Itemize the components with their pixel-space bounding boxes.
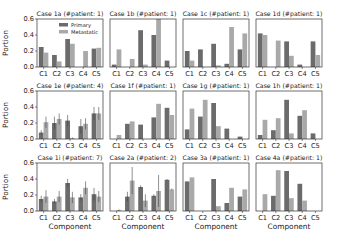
y-tick-label: 0.4 bbox=[24, 31, 35, 39]
bar bbox=[289, 56, 294, 67]
bar bbox=[238, 137, 243, 139]
chart-panel: Case 1f (#patient: 1)C1C2C3C4C5 bbox=[110, 82, 176, 150]
bar bbox=[185, 51, 190, 67]
chart-panel: Case 1g (#patient: 1)C1C2C3C4C5 bbox=[183, 82, 250, 150]
chart-panel: Case 1h (#patient: 1)C1C2C3C4C5 bbox=[256, 82, 323, 150]
x-tick-label: C1 bbox=[258, 142, 267, 150]
bar bbox=[263, 35, 268, 67]
bar bbox=[151, 35, 156, 67]
bar bbox=[65, 39, 70, 67]
y-axis-label: Portion bbox=[1, 30, 10, 56]
chart-panel: Case 1e (#patient: 4)C1C2C3C4C50.00.20.4… bbox=[1, 82, 103, 150]
bar bbox=[44, 53, 49, 67]
chart-panel: Case 1i (#patient: 7)C1C2C3C4C50.00.20.4… bbox=[1, 154, 103, 231]
legend-metastatic: Metastatic bbox=[71, 29, 98, 35]
x-tick-label: C4 bbox=[225, 70, 234, 78]
x-tick-label: C4 bbox=[298, 70, 307, 78]
bar bbox=[242, 33, 247, 67]
x-tick-label: C3 bbox=[285, 142, 294, 150]
bar bbox=[311, 41, 316, 67]
x-tick-label: C3 bbox=[66, 214, 75, 222]
bar bbox=[165, 180, 170, 211]
panel-title: Case 1g (#patient: 1) bbox=[183, 82, 250, 90]
bar bbox=[117, 135, 122, 139]
x-tick-label: C5 bbox=[311, 142, 320, 150]
x-tick-label: C1 bbox=[112, 142, 121, 150]
x-tick-label: C3 bbox=[285, 214, 294, 222]
bar bbox=[302, 110, 307, 139]
x-tick-label: C1 bbox=[185, 214, 194, 222]
bar bbox=[130, 59, 135, 67]
bar bbox=[276, 41, 281, 67]
bar bbox=[96, 48, 101, 67]
bar bbox=[302, 201, 307, 211]
y-tick-label: 0.4 bbox=[24, 175, 35, 183]
y-tick-label: 0.2 bbox=[24, 119, 35, 127]
x-tick-label: C2 bbox=[271, 214, 280, 222]
x-tick-label: C2 bbox=[125, 142, 134, 150]
bar bbox=[165, 61, 170, 67]
x-tick-label: C2 bbox=[198, 214, 207, 222]
bar bbox=[52, 55, 57, 67]
bar bbox=[276, 118, 281, 139]
bar bbox=[238, 49, 243, 67]
x-axis-label: Component bbox=[195, 222, 238, 231]
bar bbox=[216, 206, 221, 211]
bar bbox=[224, 203, 229, 211]
x-tick-label: C1 bbox=[112, 214, 121, 222]
x-tick-label: C5 bbox=[311, 214, 320, 222]
x-tick-label: C4 bbox=[225, 142, 234, 150]
legend: PrimaryMetastatic bbox=[59, 22, 98, 35]
bar bbox=[117, 49, 122, 67]
bar bbox=[169, 189, 174, 211]
x-tick-label: C5 bbox=[92, 142, 101, 150]
bar bbox=[242, 189, 247, 211]
bar bbox=[311, 133, 316, 139]
y-tick-label: 0.2 bbox=[24, 191, 35, 199]
panel-title: Case 1b (#patient: 1) bbox=[110, 10, 177, 18]
bar bbox=[297, 116, 302, 139]
y-tick-label: 0.0 bbox=[24, 207, 35, 215]
x-tick-label: C1 bbox=[39, 70, 48, 78]
y-tick-label: 0.6 bbox=[24, 159, 35, 167]
bar bbox=[65, 183, 70, 211]
y-tick-label: 0.4 bbox=[24, 103, 35, 111]
bar bbox=[211, 103, 216, 139]
bar bbox=[229, 27, 234, 67]
bar bbox=[284, 100, 289, 139]
x-axis-label: Component bbox=[122, 222, 165, 231]
x-tick-label: C1 bbox=[39, 142, 48, 150]
bar bbox=[203, 100, 208, 139]
x-tick-label: C5 bbox=[165, 70, 174, 78]
bar bbox=[39, 47, 44, 67]
x-tick-label: C4 bbox=[225, 214, 234, 222]
x-tick-label: C3 bbox=[212, 214, 221, 222]
panel-title: Case 1a (#patient: 1) bbox=[37, 10, 104, 18]
bar bbox=[284, 171, 289, 211]
bar bbox=[165, 108, 170, 139]
bar bbox=[143, 65, 148, 67]
x-tick-label: C5 bbox=[165, 214, 174, 222]
bar bbox=[258, 33, 263, 67]
x-tick-label: C2 bbox=[52, 70, 61, 78]
y-tick-label: 0.6 bbox=[24, 15, 35, 23]
bar bbox=[57, 61, 62, 67]
bar bbox=[70, 44, 75, 67]
x-tick-label: C5 bbox=[238, 214, 247, 222]
x-tick-label: C3 bbox=[139, 214, 148, 222]
bar bbox=[156, 104, 161, 139]
y-tick-label: 0.0 bbox=[24, 63, 35, 71]
chart-panel: Case 1c (#patient: 1)C1C2C3C4C5 bbox=[183, 10, 249, 78]
x-tick-label: C1 bbox=[258, 70, 267, 78]
panel-title: Case 1c (#patient: 1) bbox=[183, 10, 249, 18]
bar bbox=[224, 129, 229, 139]
panel-title: Case 1e (#patient: 4) bbox=[37, 82, 104, 90]
bar bbox=[138, 187, 143, 211]
bar bbox=[315, 55, 320, 67]
bar bbox=[112, 65, 117, 67]
x-tick-label: C5 bbox=[311, 70, 320, 78]
x-axis-label: Component bbox=[268, 222, 311, 231]
x-tick-label: C5 bbox=[165, 142, 174, 150]
x-tick-label: C3 bbox=[139, 142, 148, 150]
panel-title: Case 1h (#patient: 1) bbox=[256, 82, 323, 90]
